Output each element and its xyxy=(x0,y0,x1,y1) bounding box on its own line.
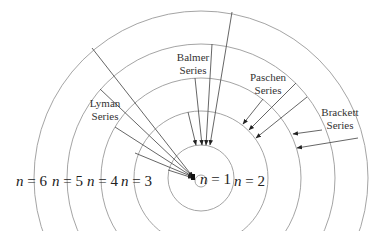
paschen-series-label-line2: Series xyxy=(255,84,282,96)
level-label-n1: n = 1 xyxy=(200,171,231,187)
level-label-n5: n = 5 xyxy=(52,173,83,189)
paschen-transition-arrow-6-to-3 xyxy=(243,99,263,124)
hydrogen-series-diagram: LymanSeriesBalmerSeriesPaschenSeriesBrac… xyxy=(0,0,386,231)
brackett-series-label-line2: Series xyxy=(327,119,354,131)
paschen-transition-arrow-4-to-3 xyxy=(256,97,307,138)
level-label-n6: n = 6 xyxy=(16,173,47,189)
lyman-series-label-line2: Series xyxy=(92,110,119,122)
balmer-transition-arrow-3-to-2 xyxy=(188,112,196,145)
lyman-series-label: Lyman xyxy=(90,97,121,109)
balmer-series xyxy=(188,12,232,145)
balmer-series-label: Balmer xyxy=(177,51,210,63)
brackett-series xyxy=(293,130,358,148)
brackett-series-label: Brackett xyxy=(321,106,358,118)
level-label-n3: n = 3 xyxy=(121,173,152,189)
orbit-circles xyxy=(34,11,368,231)
series-labels: LymanSeriesBalmerSeriesPaschenSeriesBrac… xyxy=(90,51,359,131)
brackett-transition-arrow-5-to-4 xyxy=(293,130,322,134)
level-label-n4: n = 4 xyxy=(87,173,118,189)
brackett-transition-arrow-6-to-4 xyxy=(297,138,358,148)
orbit-n4 xyxy=(101,78,301,231)
level-label-n2: n = 2 xyxy=(234,173,265,189)
paschen-series-label: Paschen xyxy=(250,71,287,83)
balmer-series-label-line2: Series xyxy=(180,64,207,76)
convergence-point xyxy=(191,174,195,180)
energy-level-labels: n = 6n = 5n = 4n = 3n = 1n = 2 xyxy=(16,171,265,189)
